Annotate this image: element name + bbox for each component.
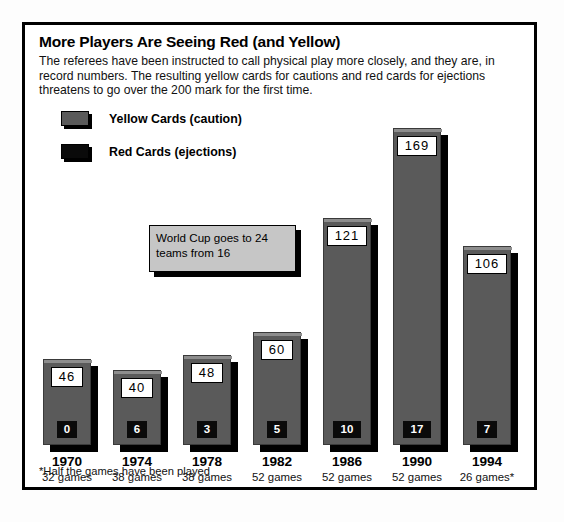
value-label-yellow-1974: 40	[121, 378, 153, 398]
bar-group-1974[interactable]: 406	[113, 370, 168, 452]
value-label-yellow-1978: 48	[191, 363, 223, 383]
footnote: *Half the games have been played	[39, 465, 210, 477]
bar-group-1990[interactable]: 16917	[393, 128, 448, 452]
x-tick-games-count: 26 games*	[452, 470, 522, 485]
x-tick-1994: 199426 games*	[452, 453, 522, 485]
bar-group-1978[interactable]: 483	[183, 355, 238, 452]
bar-group-1986[interactable]: 12110	[323, 218, 378, 452]
x-tick-1986: 198652 games	[312, 453, 382, 485]
bar-yellow-cards-1986[interactable]	[323, 218, 371, 445]
value-label-red-1982: 5	[267, 421, 287, 438]
value-label-yellow-1990: 169	[397, 136, 437, 156]
value-label-red-1978: 3	[197, 421, 217, 438]
infographic-frame: More Players Are Seeing Red (and Yellow)…	[22, 22, 537, 490]
value-label-yellow-1986: 121	[327, 226, 367, 246]
x-tick-1982: 198252 games	[242, 453, 312, 485]
x-tick-1990: 199052 games	[382, 453, 452, 485]
x-tick-year: 1990	[382, 453, 452, 470]
x-tick-games-count: 52 games	[242, 470, 312, 485]
bar-group-1994[interactable]: 1067	[463, 246, 518, 452]
bar-yellow-cards-1990[interactable]	[393, 128, 441, 445]
x-tick-games-count: 52 games	[382, 470, 452, 485]
value-label-red-1970: 0	[57, 421, 77, 438]
value-label-yellow-1982: 60	[261, 340, 293, 360]
callout-text: World Cup goes to 24 teams from 16	[156, 231, 290, 260]
bar-top-highlight	[114, 371, 162, 374]
bar-top-highlight	[324, 219, 372, 222]
bar-yellow-cards-1994[interactable]	[463, 246, 511, 445]
bar-top-highlight	[394, 129, 442, 132]
value-label-red-1994: 7	[477, 421, 497, 438]
bar-top-highlight	[254, 333, 302, 336]
screenshot-canvas: More Players Are Seeing Red (and Yellow)…	[0, 0, 564, 522]
bar-top-highlight	[184, 356, 232, 359]
annotation-callout: World Cup goes to 24 teams from 16	[149, 225, 301, 277]
value-label-red-1974: 6	[127, 421, 147, 438]
x-tick-games-count: 52 games	[312, 470, 382, 485]
x-tick-year: 1982	[242, 453, 312, 470]
bar-top-highlight	[44, 360, 92, 363]
bar-group-1982[interactable]: 605	[253, 332, 308, 452]
value-label-yellow-1994: 106	[467, 254, 507, 274]
value-label-yellow-1970: 46	[51, 367, 83, 387]
bar-group-1970[interactable]: 460	[43, 359, 98, 452]
x-tick-year: 1986	[312, 453, 382, 470]
value-label-red-1986: 10	[333, 421, 361, 438]
bar-top-highlight	[464, 247, 512, 250]
x-tick-year: 1994	[452, 453, 522, 470]
value-label-red-1990: 17	[403, 421, 431, 438]
